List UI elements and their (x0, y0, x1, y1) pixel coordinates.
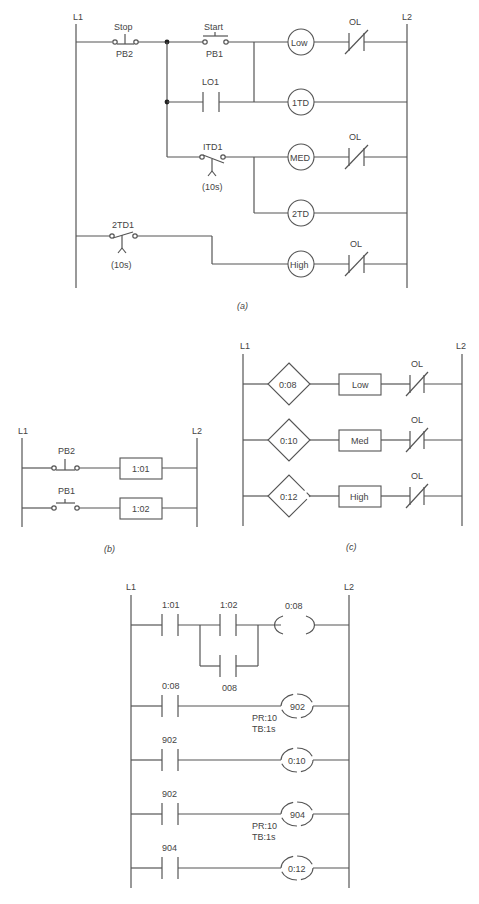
rung-high: 2TD1 (10s) High OL (76, 220, 407, 277)
itd1-time: (10s) (202, 182, 223, 192)
coil-label: 904 (290, 810, 305, 820)
pb1-no-pushbutton-icon (52, 499, 79, 510)
contact-label: 1:02 (220, 600, 238, 610)
coil-med-label: MED (290, 153, 311, 163)
caption-a: (a) (237, 301, 248, 311)
contact-label: 902 (162, 735, 177, 745)
stop-label: Stop (114, 22, 133, 32)
rung-2td: 2TD (254, 157, 407, 226)
contact-label: 904 (162, 843, 177, 853)
pb2-label: PB2 (116, 49, 133, 59)
rail-l1-label: L1 (126, 582, 136, 592)
coil-high-label: High (290, 260, 309, 270)
2td1-time: (10s) (111, 260, 132, 270)
coil-1td-label: 1TD (292, 98, 310, 108)
rail-l2-label: L2 (192, 426, 202, 436)
rung-c-high: 0:12 High OL (243, 471, 462, 517)
rung-1td: LO1 1TD (165, 77, 407, 115)
diagram-d: L1 L2 1:01 1:02 008 0:08 (126, 582, 354, 888)
ol-label: OL (350, 239, 362, 249)
2td1-timed-contact-icon (110, 232, 137, 253)
lo1-label: LO1 (202, 77, 219, 87)
ladder-diagrams-figure: L1 L2 Stop PB2 Start PB1 (0, 0, 479, 904)
caption-b: (b) (104, 544, 115, 554)
pb2-nc-pushbutton-icon (52, 459, 79, 470)
rung-low: Stop PB2 Start PB1 Low OL (76, 17, 407, 59)
ol-label: OL (349, 132, 361, 142)
rung-c-low: 0:08 Low OL (243, 359, 462, 405)
coil-label: 902 (290, 702, 305, 712)
ol-label: OL (349, 17, 361, 27)
output-label: Med (351, 436, 369, 446)
rung-d-5: 904 0:12 (131, 843, 349, 880)
start-pushbutton-no-icon (203, 32, 228, 44)
output-label: Low (352, 380, 369, 390)
contact-label: 1:01 (162, 600, 180, 610)
start-label: Start (204, 22, 224, 32)
rail-l1-label: L1 (240, 341, 250, 351)
rail-l2-label: L2 (402, 12, 412, 22)
timebase-label: TB:1s (252, 724, 276, 734)
ol-label: OL (411, 415, 423, 425)
timebase-label: TB:1s (252, 832, 276, 842)
pb1-label: PB1 (206, 49, 223, 59)
rail-l1-label: L1 (73, 12, 83, 22)
coil-2td-label: 2TD (292, 209, 310, 219)
rung-d-1: 1:01 1:02 008 0:08 (131, 600, 349, 693)
2td1-label: 2TD1 (112, 220, 134, 230)
rung-d-2: 0:08 902 PR:10 TB:1s (131, 681, 349, 734)
rail-l2-label: L2 (456, 341, 466, 351)
coil-label: 0:10 (288, 756, 306, 766)
stop-pushbutton-nc-icon (113, 34, 138, 44)
ol-label: OL (411, 359, 423, 369)
rung-med: ITD1 (10s) MED OL (167, 132, 407, 192)
itd1-label: ITD1 (203, 142, 223, 152)
coil-label: 0:12 (288, 864, 306, 874)
output-1-02-label: 1:02 (132, 504, 150, 514)
rail-l2-label: L2 (344, 582, 354, 592)
pb2-label: PB2 (58, 446, 75, 456)
contact-label: 008 (222, 683, 237, 693)
pb1-label: PB1 (58, 486, 75, 496)
input-label: 0:12 (280, 492, 298, 502)
diagram-a: L1 L2 Stop PB2 Start PB1 (73, 12, 412, 311)
rung-d-3: 902 0:10 (131, 735, 349, 772)
rail-l1-label: L1 (18, 426, 28, 436)
rung-d-4: 902 904 PR:10 TB:1s (131, 789, 349, 842)
rung-pb2: PB2 1:01 (22, 446, 197, 479)
preset-label: PR:10 (252, 713, 277, 723)
preset-label: PR:10 (252, 821, 277, 831)
diagram-c: L1 L2 0:08 Low OL 0:10 (240, 341, 466, 552)
ol-label: OL (411, 471, 423, 481)
coil-label: 0:08 (285, 601, 303, 611)
diagram-b: L1 L2 PB2 1:01 P (18, 426, 202, 554)
output-label: High (350, 492, 369, 502)
input-label: 0:08 (279, 380, 297, 390)
contact-label: 0:08 (162, 681, 180, 691)
output-1-01-label: 1:01 (132, 464, 150, 474)
caption-c: (c) (346, 542, 357, 552)
itd1-timed-contact-icon (200, 155, 225, 176)
contact-label: 902 (162, 789, 177, 799)
coil-low-label: Low (291, 38, 308, 48)
rung-c-med: 0:10 Med OL (243, 415, 462, 461)
rung-pb1: PB1 1:02 (22, 486, 197, 519)
input-label: 0:10 (280, 436, 298, 446)
